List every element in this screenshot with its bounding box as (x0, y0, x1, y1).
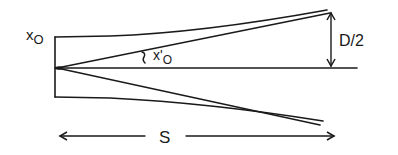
label-s: S (159, 128, 170, 147)
beam-envelope-top (55, 10, 327, 37)
label-x0: xO (26, 26, 44, 47)
divergence-ray-bottom (57, 68, 320, 125)
angle-marker-icon (142, 52, 145, 63)
label-x0-prime: x'O (153, 47, 172, 67)
label-d-half: D/2 (339, 32, 364, 49)
beam-divergence-diagram: xO x'O D/2 S (0, 0, 398, 155)
divergence-ray-top (57, 13, 330, 68)
